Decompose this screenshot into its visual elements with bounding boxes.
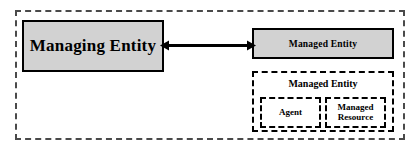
managed-resource-node[interactable]: Managed Resource xyxy=(325,97,386,128)
managed-resource-label: Managed Resource xyxy=(336,103,376,123)
double-arrow-icon xyxy=(160,37,256,55)
managed-resource-label-line1: Managed xyxy=(338,102,374,112)
managed-resource-label-line2: Resource xyxy=(338,112,373,122)
managed-entity-label: Managed Entity xyxy=(289,39,358,49)
agent-label: Agent xyxy=(279,108,302,118)
managed-entity-node[interactable]: Managed Entity xyxy=(252,28,394,59)
managed-entity-components-row: Agent Managed Resource xyxy=(260,97,386,128)
agent-node[interactable]: Agent xyxy=(260,97,321,128)
managing-entity-node[interactable]: Managing Entity xyxy=(22,20,164,72)
managed-entity-detail-group: Managed Entity Agent Managed Resource xyxy=(252,71,394,132)
managed-entity-detail-title: Managed Entity xyxy=(254,78,392,89)
managing-entity-label: Managing Entity xyxy=(30,36,156,56)
management-link-bidirectional-arrow xyxy=(160,37,256,55)
diagram-canvas: Managing Entity Managed Entity Managed E… xyxy=(0,0,417,147)
